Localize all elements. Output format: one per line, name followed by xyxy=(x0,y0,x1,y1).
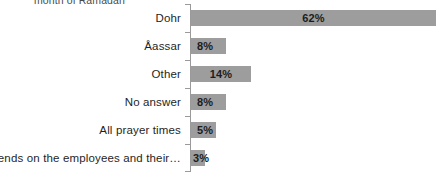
bar-row: Depends on the employees and their… 3% xyxy=(0,144,440,172)
category-label: Depends on the employees and their… xyxy=(0,144,181,172)
category-label: Other xyxy=(151,60,181,88)
bar[interactable]: 14% xyxy=(191,66,251,82)
category-label: Åassar xyxy=(144,32,181,60)
bar-value-label: 14% xyxy=(191,66,251,82)
bar-row: Other 14% xyxy=(0,60,440,88)
bar-container: 3% xyxy=(191,150,205,166)
bar-chart: month of Ramadan Dohr 62% Åassar 8% xyxy=(0,0,440,179)
bar-container: 14% xyxy=(191,66,251,82)
category-label: No answer xyxy=(125,88,181,116)
bar-row: Åassar 8% xyxy=(0,32,440,60)
bar-row: Dohr 62% xyxy=(0,4,440,32)
bar-container: 5% xyxy=(191,122,216,138)
bar-container: 8% xyxy=(191,38,226,54)
bar-value-label: 8% xyxy=(197,38,213,54)
bar-value-label: 3% xyxy=(193,150,209,166)
bar-value-label: 8% xyxy=(197,94,213,110)
bar-container: 62% xyxy=(191,10,436,26)
category-label: All prayer times xyxy=(99,116,181,144)
bar-value-label: 62% xyxy=(191,10,436,26)
bar-value-label: 5% xyxy=(197,122,213,138)
bar[interactable]: 3% xyxy=(191,150,205,166)
bar[interactable]: 8% xyxy=(191,94,226,110)
category-label: Dohr xyxy=(155,4,181,32)
bar-row: No answer 8% xyxy=(0,88,440,116)
bar-container: 8% xyxy=(191,94,226,110)
plot-area: Dohr 62% Åassar 8% Other 14% xyxy=(0,4,440,176)
bar-row: All prayer times 5% xyxy=(0,116,440,144)
bar[interactable]: 5% xyxy=(191,122,216,138)
bar[interactable]: 62% xyxy=(191,10,436,26)
bar[interactable]: 8% xyxy=(191,38,226,54)
